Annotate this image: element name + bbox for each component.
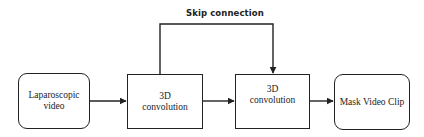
node-3d-convolution-2: 3D convolution xyxy=(235,74,310,129)
flowchart-diagram: Skip connection Laparoscopic video 3D co… xyxy=(0,0,424,137)
node-label: Mask Video Clip xyxy=(340,97,405,108)
node-label-line2: convolution xyxy=(142,102,187,113)
node-label-line2: convolution xyxy=(250,95,295,106)
node-label-line1: Laparoscopic xyxy=(28,90,79,101)
node-mask-video-clip: Mask Video Clip xyxy=(334,74,410,130)
skip-connection-line xyxy=(160,24,273,74)
node-label-line1: 3D xyxy=(250,84,295,95)
node-laparoscopic-video: Laparoscopic video xyxy=(18,73,90,129)
skip-connection-label: Skip connection xyxy=(186,8,264,18)
node-label-line1: 3D xyxy=(142,91,187,102)
node-3d-convolution-1: 3D convolution xyxy=(127,74,203,129)
node-label-line2: video xyxy=(28,101,79,112)
